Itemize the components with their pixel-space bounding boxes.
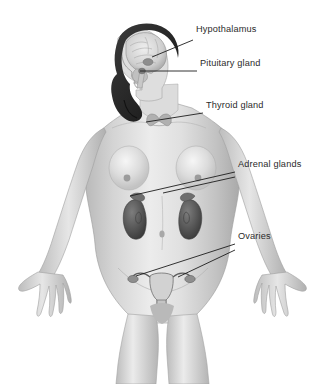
label-adrenal-glands: Adrenal glands	[238, 159, 301, 169]
anatomy-diagram: Hypothalamus Pituitary gland Thyroid gla…	[0, 0, 325, 384]
hypothalamus-gland	[143, 59, 153, 66]
body-figure	[19, 24, 307, 384]
navel	[159, 230, 164, 237]
leg-left	[116, 314, 158, 384]
figure-illustration	[0, 0, 325, 384]
label-hypothalamus: Hypothalamus	[196, 24, 257, 34]
leg-right	[167, 314, 209, 384]
hand-left	[19, 272, 72, 317]
hand-right	[254, 272, 307, 317]
label-pituitary-gland: Pituitary gland	[200, 58, 260, 68]
ovary-left	[128, 275, 138, 282]
nipple-left	[124, 175, 131, 182]
label-ovaries: Ovaries	[238, 231, 271, 241]
ovary-right	[185, 275, 195, 282]
breast-right	[176, 146, 216, 190]
label-thyroid-gland: Thyroid gland	[206, 100, 264, 110]
brain	[126, 33, 167, 73]
breast-left	[109, 146, 149, 190]
